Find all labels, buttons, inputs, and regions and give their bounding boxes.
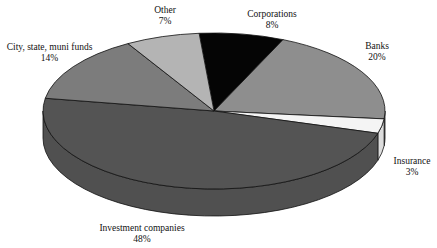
label-investment-companies: Investment companies 48% — [92, 223, 192, 245]
label-other: Other 7% — [140, 5, 190, 27]
pie-chart — [0, 0, 437, 248]
label-insurance: Insurance 3% — [387, 156, 437, 178]
label-city-state-muni: City, state, muni funds 14% — [2, 42, 97, 64]
label-corporations: Corporations 8% — [237, 9, 307, 31]
label-banks: Banks 20% — [357, 41, 397, 63]
